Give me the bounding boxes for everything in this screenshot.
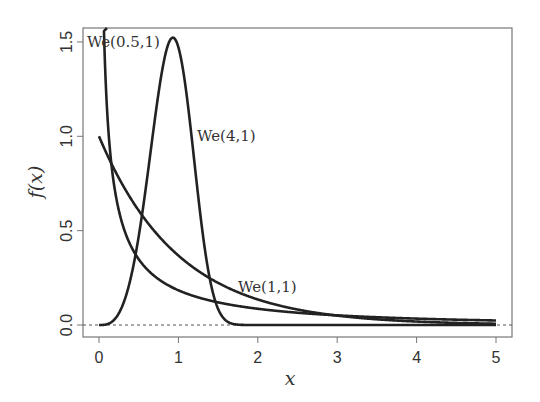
- curve-We(4,1): [99, 38, 496, 325]
- x-tick-label: 0: [95, 349, 104, 366]
- x-tick-label: 1: [174, 349, 183, 366]
- x-tick-label: 3: [333, 349, 342, 366]
- x-tick-label: 5: [492, 349, 501, 366]
- y-axis-ticks: 0.00.51.01.5: [58, 31, 83, 336]
- x-tick-label: 4: [412, 349, 421, 366]
- curve-We(1,1): [99, 136, 496, 323]
- label-we-0.5-1: We(0.5,1): [87, 33, 160, 51]
- y-axis-title: f(x): [24, 166, 46, 201]
- y-tick-label: 0.0: [58, 314, 75, 336]
- x-axis-title: x: [285, 367, 296, 389]
- label-we-4-1: We(4,1): [197, 127, 256, 145]
- density-curves: [99, 28, 496, 325]
- weibull-density-chart: 012345 0.00.51.01.5 We(0.5,1) We(4,1) We…: [0, 0, 540, 402]
- y-tick-label: 0.5: [58, 219, 75, 241]
- label-we-1-1: We(1,1): [238, 278, 297, 296]
- y-tick-label: 1.5: [58, 31, 75, 53]
- x-tick-label: 2: [253, 349, 262, 366]
- y-tick-label: 1.0: [58, 125, 75, 147]
- x-axis-ticks: 012345: [95, 337, 501, 366]
